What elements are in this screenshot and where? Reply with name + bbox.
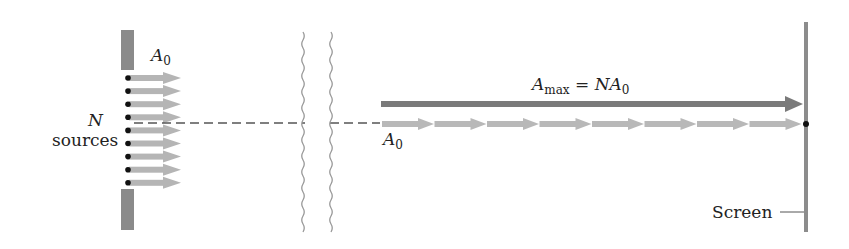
break-line-left (302, 32, 305, 232)
source-dot (125, 128, 131, 134)
amax-label: Amax = NA0 (532, 76, 629, 96)
n-label: N (88, 112, 103, 129)
source-arrows (125, 72, 181, 189)
source-dot (125, 167, 131, 173)
source-dot (125, 75, 131, 81)
source-dot (125, 180, 131, 186)
interference-diagram: A0 N sources Amax = NA0 A0 Screen (0, 0, 849, 249)
source-dot (125, 154, 131, 160)
screen-point-dot (803, 121, 809, 127)
screen-label: Screen (712, 204, 772, 221)
barrier-bottom (121, 189, 134, 230)
sources-label: sources (52, 132, 118, 149)
a0-source-label: A0 (151, 47, 171, 67)
source-dot (125, 88, 131, 94)
source-dot (125, 115, 131, 121)
max-amplitude-arrow (381, 96, 803, 112)
single-amplitude-arrow-chain (382, 118, 802, 130)
source-dot (125, 101, 131, 107)
barrier-top (121, 30, 134, 70)
break-line-right (330, 32, 333, 232)
source-dot (125, 141, 131, 147)
a0-chain-label: A0 (383, 131, 403, 151)
